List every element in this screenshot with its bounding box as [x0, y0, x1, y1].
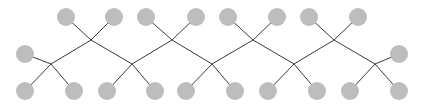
node-circle	[259, 82, 277, 100]
node-circle	[177, 82, 195, 100]
node-circle	[98, 82, 116, 100]
node-circle	[226, 82, 244, 100]
node-circle	[187, 8, 205, 26]
node-circle	[146, 82, 164, 100]
backbone-edge	[294, 40, 334, 64]
node-circle	[219, 8, 237, 26]
node-circle	[105, 8, 123, 26]
node-circle	[137, 8, 155, 26]
node-circle	[57, 8, 75, 26]
backbone-edge	[51, 40, 91, 64]
tree-chain-diagram	[0, 0, 428, 105]
node-circle	[16, 45, 34, 63]
nodes-layer	[16, 8, 408, 100]
edges-layer	[25, 17, 399, 91]
backbone-edge	[334, 40, 375, 64]
node-circle	[390, 82, 408, 100]
backbone-edge	[172, 40, 212, 64]
node-circle	[349, 8, 367, 26]
node-circle	[300, 8, 318, 26]
node-circle	[16, 82, 34, 100]
backbone-edge	[132, 40, 172, 64]
node-circle	[341, 82, 359, 100]
backbone-edge	[212, 40, 253, 64]
node-circle	[308, 82, 326, 100]
node-circle	[390, 45, 408, 63]
backbone-edge	[253, 40, 294, 64]
node-circle	[65, 82, 83, 100]
backbone-edge	[91, 40, 132, 64]
node-circle	[268, 8, 286, 26]
